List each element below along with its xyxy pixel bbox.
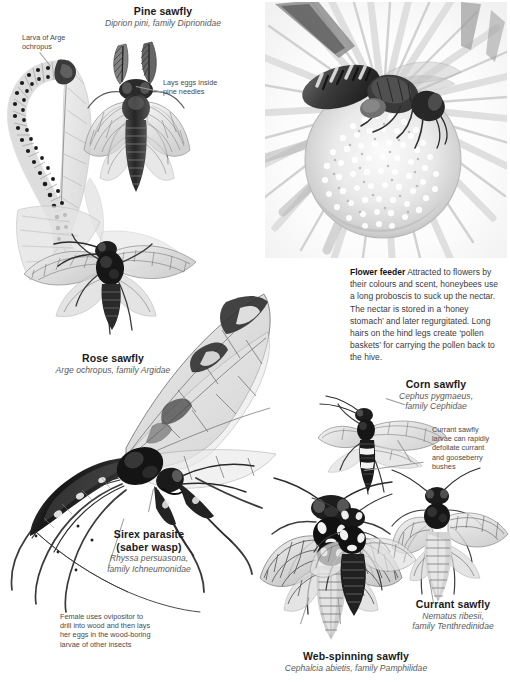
larva-of-arge-annotation: Larva of Arge ochropus (22, 33, 92, 51)
currant-sawfly-title: Currant sawfly (396, 598, 510, 611)
currant-sawfly-label: Currant sawfly Nematus ribesii, family T… (396, 598, 510, 632)
corn-sawfly-subtitle-line2: family Cephidae (388, 401, 484, 412)
sirex-parasite-title-line2: (saber wasp) (86, 541, 212, 554)
corn-sawfly-label: Corn sawfly Cephus pygmaeus, family Ceph… (388, 378, 484, 412)
pine-sawfly-label: Pine sawfly Diprion pini, family Diprion… (98, 5, 228, 28)
web-spinning-sawfly-label: Web-spinning sawfly Cephalcia abietis, f… (256, 650, 456, 673)
sirex-parasite-subtitle-line1: Rhyssa persuasona, (86, 553, 212, 564)
flower-feeder-body: Attracted to flowers by their colours an… (350, 267, 498, 362)
currant-sawfly-subtitle-line2: family Tenthredinidae (396, 621, 510, 632)
honeybee-photograph (265, 2, 507, 258)
sirex-parasite-subtitle-line2: family Ichneumonidae (86, 564, 212, 575)
rose-sawfly-title: Rose sawfly (38, 352, 188, 365)
corn-sawfly-subtitle-line1: Cephus pygmaeus, (388, 391, 484, 402)
currant-sawfly-subtitle-line1: Nematus ribesii, (396, 611, 510, 622)
pine-sawfly-subtitle: Diprion pini, family Diprionidae (98, 18, 228, 29)
sirex-parasite-label: Sirex parasite (saber wasp) Rhyssa persu… (86, 528, 212, 574)
rose-sawfly-subtitle: Arge ochropus, family Argidae (38, 365, 188, 376)
pine-sawfly-title: Pine sawfly (98, 5, 228, 18)
web-spinning-sawfly-subtitle: Cephalcia abietis, family Pamphilidae (256, 663, 456, 674)
web-spinning-sawfly-title: Web-spinning sawfly (256, 650, 456, 663)
corn-sawfly-title: Corn sawfly (388, 378, 484, 391)
currant-larvae-annotation: Currant sawfly larvae can rapidly defoli… (432, 425, 510, 471)
flower-feeder-caption: Flower feeder Attracted to flowers by th… (350, 266, 498, 364)
female-ovipositor-annotation: Female uses ovipositor to drill into woo… (60, 612, 172, 649)
reference-page: Pine sawfly Diprion pini, family Diprion… (0, 0, 510, 690)
lays-eggs-annotation: Lays eggs inside pine needles (163, 78, 233, 96)
flower-feeder-lead: Flower feeder (350, 267, 405, 277)
pine-sawfly-illustration (82, 40, 194, 212)
rose-sawfly-label: Rose sawfly Arge ochropus, family Argida… (38, 352, 188, 375)
sirex-parasite-title-line1: Sirex parasite (86, 528, 212, 541)
